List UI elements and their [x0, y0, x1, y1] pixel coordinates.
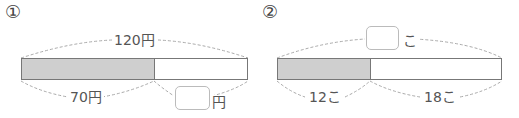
problem-1-white-bar — [154, 58, 248, 80]
problem-2-part-b-label: 18こ — [422, 90, 458, 104]
problem-1-part-label: 70円 — [68, 90, 104, 104]
problem-1-answer-unit: 円 — [210, 95, 228, 109]
problem-1-answer-box[interactable] — [175, 86, 210, 110]
problem-2-white-bar — [370, 58, 502, 80]
problem-2-number: ② — [262, 3, 278, 21]
problem-1-total-label: 120円 — [112, 33, 157, 47]
problem-2-shaded-bar — [277, 58, 371, 80]
problem-1-shaded-bar — [21, 58, 155, 80]
problem-2-total-unit: こ — [401, 34, 419, 48]
problem-2-answer-box[interactable] — [366, 26, 399, 50]
problem-2-part-a-label: 12こ — [307, 90, 343, 104]
problem-1-number: ① — [5, 3, 21, 21]
